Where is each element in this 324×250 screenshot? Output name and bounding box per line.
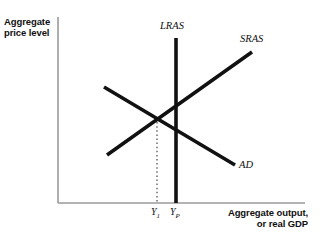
ad-curve-label: AD — [239, 159, 253, 170]
x-axis-title: Aggregate output, or real GDP — [196, 207, 308, 229]
ad-as-diagram-figure: Aggregate price level Aggregate output, … — [0, 0, 324, 250]
sras-curve-label: SRAS — [240, 33, 263, 44]
y1-tick-subscript: 1 — [157, 212, 161, 220]
y1-tick-label: Y1 — [151, 206, 160, 220]
lras-curve-label: LRAS — [160, 20, 184, 31]
y-axis-title: Aggregate price level — [4, 16, 54, 38]
yp-tick-label: YP — [170, 206, 180, 220]
ad-curve — [104, 87, 235, 165]
yp-tick-subscript: P — [176, 212, 180, 220]
